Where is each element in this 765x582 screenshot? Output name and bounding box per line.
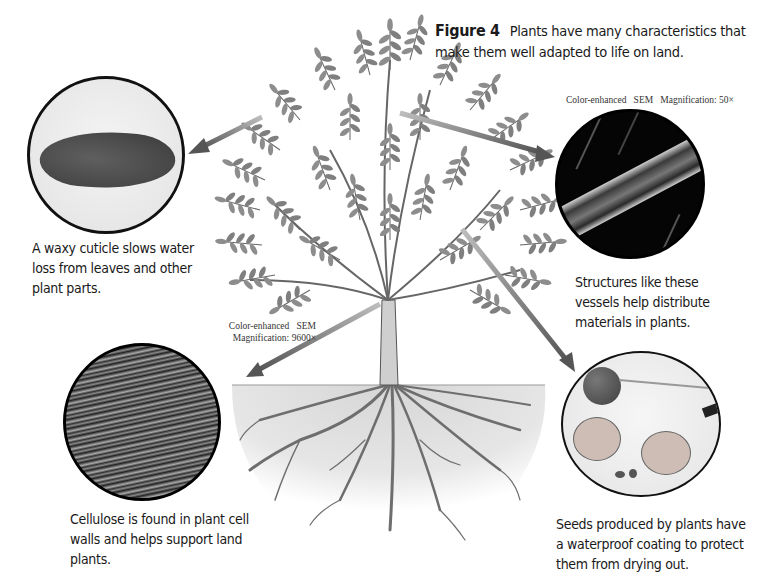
- tree-trunk: [380, 300, 398, 385]
- figure-caption: Figure 4 Plants have many characteristic…: [435, 20, 765, 63]
- cellulose-sem-label: Color-enhanced SEM Magnification: 9600×: [196, 320, 316, 344]
- vessel-tube: [555, 128, 705, 243]
- cherry-half-left: [573, 417, 621, 461]
- cherry-stem-end: [702, 402, 721, 418]
- cuticle-description: A waxy cuticle slows water loss from lea…: [32, 238, 212, 298]
- seed: [629, 469, 637, 478]
- figure-number: Figure 4: [435, 21, 500, 40]
- cellulose-sem-label-line1: Color-enhanced SEM: [196, 320, 316, 332]
- vessels-description: Structures like these vessels help distr…: [575, 272, 725, 332]
- leaf-shape: [37, 124, 177, 196]
- arrow-to-cuticle: [200, 117, 262, 148]
- vessels-sem-label: Color-enhanced SEM Magnification: 50×: [566, 94, 765, 106]
- cellulose-description: Cellulose is found in plant cell walls a…: [70, 509, 250, 569]
- whole-cherry: [583, 367, 621, 405]
- seed: [615, 471, 625, 478]
- cellulose-sem-image: [63, 343, 221, 501]
- cellulose-sem-label-line2: Magnification: 9600×: [196, 332, 316, 344]
- seeds-cherry-image: [561, 351, 721, 497]
- cherry-stem: [619, 379, 709, 389]
- seeds-description: Seeds produced by plants have a waterpro…: [556, 514, 756, 574]
- vessels-sem-image: [555, 109, 705, 259]
- cuticle-leaf-image: [27, 76, 185, 234]
- cherry-half-right: [641, 431, 691, 475]
